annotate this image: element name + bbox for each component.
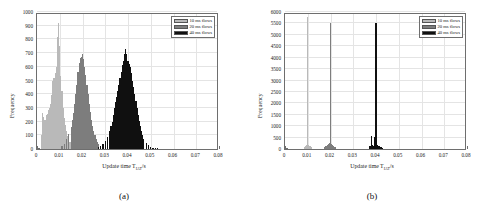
x-axis-title-tail-a: /s [142, 163, 146, 169]
x-axis-title-main-a: Update time T [102, 163, 135, 169]
legend-item: 20 ms flows [422, 25, 460, 30]
histogram-bar [311, 147, 312, 149]
y-axis-title-a: Frequency [9, 93, 15, 118]
legend-swatch-20ms [174, 25, 188, 30]
y-tick-label: 1000 [23, 10, 33, 15]
histogram-bar [307, 17, 308, 149]
x-tick-mark [219, 146, 220, 149]
y-tick-label: 600 [25, 65, 33, 70]
histogram-bar [66, 139, 67, 149]
y-axis-tick-labels-b: 0500100015002000250030003500400045005000… [248, 13, 281, 150]
legend-item: 10 ms flows [422, 19, 460, 24]
histogram-bar [68, 134, 69, 149]
legend-swatch-40ms [174, 31, 188, 36]
histogram-bar [143, 139, 144, 149]
y-tick-label: 500 [273, 136, 281, 141]
legend-swatch-40ms [422, 31, 436, 36]
legend-b: 10 ms flows 20 ms flows 40 ms flows [419, 16, 463, 38]
histogram-bar [155, 148, 156, 149]
y-tick-label: 6000 [271, 10, 281, 15]
y-tick-label: 5000 [271, 33, 281, 38]
x-tick-label: 0.01 [54, 153, 63, 158]
histogram-bar [148, 145, 149, 149]
legend-swatch-10ms [422, 19, 436, 24]
x-tick-label: 0.05 [145, 153, 154, 158]
y-tick-label: 1000 [271, 125, 281, 130]
y-tick-label: 300 [25, 106, 33, 111]
y-tick-label: 4500 [271, 45, 281, 50]
y-tick-label: 0 [278, 147, 281, 152]
y-tick-label: 2500 [271, 90, 281, 95]
histogram-bar [98, 147, 99, 149]
legend-item: 40 ms flows [174, 31, 212, 36]
y-tick-label: 900 [25, 24, 33, 29]
y-tick-label: 500 [25, 79, 33, 84]
y-tick-label: 3000 [271, 79, 281, 84]
histogram-bar [382, 148, 383, 149]
legend-label-40ms: 40 ms flows [438, 31, 460, 36]
histogram-bar [146, 143, 147, 149]
histogram-bar [64, 144, 65, 149]
caption-a: (a) [0, 191, 248, 201]
axes-frame-b: 10 ms flows 20 ms flows 40 ms flows [284, 13, 466, 150]
y-axis-title-b: Frequency [257, 93, 263, 118]
histogram-bar [152, 148, 153, 149]
y-tick-label: 200 [25, 120, 33, 125]
x-axis-title-tail-b: /s [390, 163, 394, 169]
x-tick-label: 0.06 [416, 153, 425, 158]
histogram-bar [157, 148, 158, 149]
x-axis-title-a: Update time TIAT/s [0, 163, 248, 171]
x-axis-title-b: Update time TIAT/s [248, 163, 496, 171]
histogram-bar [61, 146, 62, 149]
histogram-bar [100, 146, 101, 149]
y-axis-tick-labels-a: 01002003004005006007008009001000 [0, 13, 33, 150]
legend-label-20ms: 20 ms flows [438, 25, 460, 30]
y-tick-label: 100 [25, 134, 33, 139]
x-tick-label: 0.01 [302, 153, 311, 158]
x-tick-label: 0.06 [168, 153, 177, 158]
histogram-bar [375, 23, 376, 149]
x-tick-label: 0.03 [348, 153, 357, 158]
x-tick-label: 0.02 [325, 153, 334, 158]
x-tick-label: 0.03 [100, 153, 109, 158]
legend-label-40ms: 40 ms flows [190, 31, 212, 36]
y-tick-label: 2000 [271, 102, 281, 107]
y-tick-label: 4000 [271, 56, 281, 61]
x-tick-label: 0.04 [370, 153, 379, 158]
x-tick-mark [467, 146, 468, 149]
x-tick-label: 0.04 [122, 153, 131, 158]
x-tick-label: 0.07 [191, 153, 200, 158]
x-tick-label: 0.08 [213, 153, 222, 158]
x-tick-label: 0.05 [393, 153, 402, 158]
histogram-bar [150, 147, 151, 149]
legend-item: 20 ms flows [174, 25, 212, 30]
histogram-bar [334, 147, 335, 150]
plot-area-b: 0500100015002000250030003500400045005000… [248, 0, 496, 178]
histogram-bar [330, 23, 331, 149]
y-tick-label: 1500 [271, 113, 281, 118]
y-tick-label: 0 [30, 147, 33, 152]
axes-frame-a: 10 ms flows 20 ms flows 40 ms flows [36, 13, 218, 150]
legend-label-10ms: 10 ms flows [438, 19, 460, 24]
legend-label-10ms: 10 ms flows [190, 19, 212, 24]
gridline-horizontal [37, 11, 217, 12]
x-tick-label: 0 [35, 153, 38, 158]
histogram-bar [102, 144, 103, 149]
x-tick-label: 0.08 [461, 153, 470, 158]
histogram-bar [105, 141, 106, 149]
x-axis-tick-labels-a: 00.010.020.030.040.050.060.070.08 [36, 153, 218, 163]
y-tick-label: 5500 [271, 22, 281, 27]
legend-a: 10 ms flows 20 ms flows 40 ms flows [171, 16, 215, 38]
caption-b: (b) [248, 191, 496, 201]
y-tick-label: 3500 [271, 67, 281, 72]
y-tick-label: 800 [25, 38, 33, 43]
legend-item: 10 ms flows [174, 19, 212, 24]
y-tick-label: 700 [25, 51, 33, 56]
legend-item: 40 ms flows [422, 31, 460, 36]
gridline-horizontal [285, 11, 465, 12]
x-tick-label: 0 [283, 153, 286, 158]
y-tick-label: 400 [25, 93, 33, 98]
histogram-bar [107, 137, 108, 149]
legend-label-20ms: 20 ms flows [190, 25, 212, 30]
x-tick-label: 0.02 [77, 153, 86, 158]
